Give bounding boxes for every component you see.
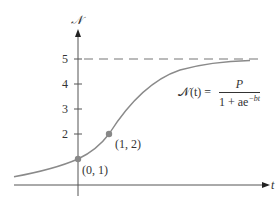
tick-label-3: 3 <box>62 103 68 115</box>
tick-label-4: 4 <box>62 78 68 90</box>
point-1-2 <box>106 131 112 137</box>
x-axis-label: t <box>271 179 274 191</box>
formula-fraction: P 1 + ae−bt <box>219 77 260 110</box>
formula-denominator: 1 + ae−bt <box>219 92 260 110</box>
point-0-1 <box>75 156 81 162</box>
point-label-1-2: (1, 2) <box>115 138 141 150</box>
n-axis-arrow-icon <box>75 29 81 37</box>
point-label-0-1: (0, 1) <box>82 164 108 176</box>
formula-numerator: P <box>219 77 260 92</box>
formula-denominator-base: 1 + ae <box>219 95 248 109</box>
t-axis-arrow-icon <box>262 182 270 188</box>
tick-label-2: 2 <box>62 128 68 140</box>
tick-label-5: 5 <box>62 53 68 65</box>
formula-lhs: 𝒩(t) = <box>178 86 211 98</box>
formula-exponent: −bt <box>248 94 260 103</box>
y-axis-label: 𝒩 <box>71 14 82 26</box>
logistic-curve <box>14 61 250 177</box>
